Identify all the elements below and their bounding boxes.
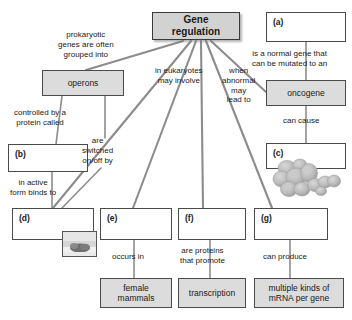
edge-label-line: grouped into: [64, 50, 108, 59]
node-label: multiple kinds of mRNA per gene: [269, 283, 330, 303]
edge-label-normal-gene-mutated: is a normal gene that can be mutated to …: [252, 49, 327, 69]
node-label-line2: mRNA per gene: [269, 293, 329, 303]
edge-label-can-produce: can produce: [263, 252, 307, 262]
node-oncogene[interactable]: oncogene: [266, 80, 346, 106]
edge-label-line: controlled by a: [14, 108, 66, 117]
edge-label-line: prokaryotic: [66, 30, 105, 39]
edge-label-line: on/off by: [82, 156, 113, 165]
node-label: (a): [273, 17, 283, 27]
node-label: transcription: [189, 288, 235, 298]
edge-label-line: occurs in: [112, 252, 144, 261]
node-label: (c): [273, 148, 283, 158]
node-label: Gene regulation: [172, 14, 220, 38]
micrograph-thumbnail-image: [62, 231, 97, 257]
node-e[interactable]: (e): [100, 208, 172, 240]
edge-label-line: in active: [18, 178, 47, 187]
node-label-line1: multiple kinds of: [269, 283, 330, 293]
node-label: female mammals: [118, 283, 155, 303]
node-transcription[interactable]: transcription: [178, 278, 246, 308]
edge-label-line: is a normal gene that: [252, 49, 327, 58]
tumor-cells-image: [272, 158, 342, 202]
node-label: operons: [68, 78, 99, 88]
node-b[interactable]: (b): [8, 144, 88, 172]
edge-label-prokaryotic-genes: prokaryotic genes are often grouped into: [58, 30, 114, 59]
node-label: (g): [261, 213, 272, 223]
edge-label-line: switched: [82, 146, 113, 155]
edge-operons-d-diag: [62, 168, 101, 208]
edge-label-line: can produce: [263, 252, 307, 261]
node-gene-regulation[interactable]: Gene regulation: [152, 12, 240, 40]
edge-label-in-eukaryotes: in eukaryotes may involve: [155, 66, 203, 86]
edge-label-line: protein called: [16, 118, 64, 127]
node-label: (f): [185, 213, 194, 223]
node-female-mammals[interactable]: female mammals: [100, 278, 172, 308]
node-label: oncogene: [287, 88, 324, 98]
edge-label-controlled-by-protein: controlled by a protein called: [14, 108, 66, 128]
edge-label-line: are proteins: [181, 246, 223, 255]
edge-label-line: form binds to: [10, 188, 56, 197]
edge-label-line: can cause: [283, 116, 319, 125]
edge-label-line: in eukaryotes: [155, 66, 203, 75]
node-label-line1: Gene: [183, 14, 208, 25]
edge-label-are-proteins-that-promote: are proteins that promote: [180, 246, 225, 266]
node-label-line2: mammals: [118, 293, 155, 303]
edge-label-line: are: [92, 136, 104, 145]
edge-label-can-cause: can cause: [283, 116, 319, 126]
edge-label-switched-on-off: are switched on/off by: [82, 136, 113, 165]
node-label: (d): [19, 213, 30, 223]
edge-label-line: when: [229, 66, 248, 75]
edge-label-when-abnormal: when abnormal may lead to: [222, 66, 255, 105]
edge-label-line: abnormal: [222, 76, 255, 85]
node-label: (b): [15, 149, 26, 159]
edge-label-line: that promote: [180, 256, 225, 265]
edge-label-occurs-in: occurs in: [112, 252, 144, 262]
node-f[interactable]: (f): [178, 208, 246, 240]
node-label-line1: female: [123, 283, 149, 293]
edge-label-line: genes are often: [58, 40, 114, 49]
edge-label-line: lead to: [227, 95, 251, 104]
edge-label-line: may involve: [158, 76, 200, 85]
node-g[interactable]: (g): [254, 208, 328, 240]
edge-label-line: may: [231, 86, 246, 95]
edge-label-line: can be mutated to an: [252, 59, 327, 68]
node-a[interactable]: (a): [266, 12, 346, 42]
node-operons[interactable]: operons: [42, 70, 124, 96]
concept-map-diagram: Gene regulation operons (a) oncogene (c)…: [0, 0, 352, 320]
node-label: (e): [107, 213, 117, 223]
node-label-line2: regulation: [172, 26, 220, 37]
node-mrna-kinds[interactable]: multiple kinds of mRNA per gene: [254, 278, 344, 308]
edge-label-active-form-binds: in active form binds to: [10, 178, 56, 198]
